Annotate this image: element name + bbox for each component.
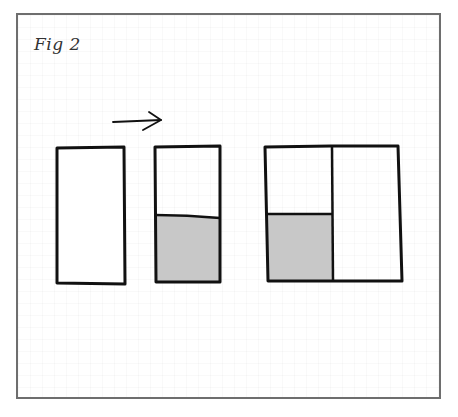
- rectangle-combined: [265, 146, 402, 281]
- shaded-region: [155, 216, 220, 282]
- rectangle-empty: [57, 147, 125, 284]
- rectangle-partially-shaded: [155, 146, 220, 282]
- shaded-region: [268, 214, 332, 281]
- arrow-right-icon: [113, 112, 161, 130]
- figure-drawing: [0, 0, 458, 417]
